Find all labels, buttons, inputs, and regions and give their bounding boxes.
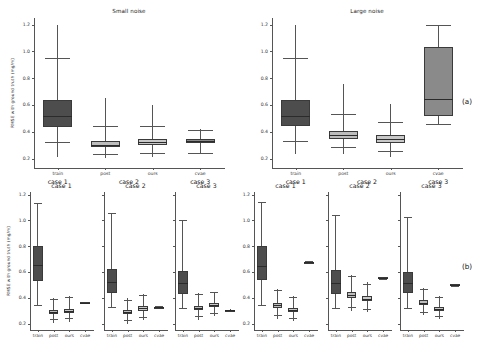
y-tick-label: 0.8 [10, 244, 26, 249]
median-line [419, 303, 429, 304]
whisker-cap-high [258, 202, 266, 203]
y-tick-mark [270, 78, 272, 79]
x-tick-mark [69, 330, 70, 332]
y-tick-label: 0.4 [234, 295, 250, 300]
whisker-cap-high [378, 122, 403, 123]
whisker-cap-high [108, 213, 116, 214]
subplot-title: case 3 [400, 182, 463, 189]
x-tick-label-post: post [89, 171, 121, 176]
y-tick-mark [102, 220, 104, 221]
median-line [434, 309, 444, 310]
whisker-cap-low [332, 308, 340, 309]
x-tick-mark [38, 330, 39, 332]
x-tick-label-cvae: cvae [439, 333, 471, 338]
whisker-cap-low [435, 316, 443, 317]
x-tick-mark [143, 330, 144, 332]
whisker-cap-high [289, 297, 297, 298]
median-line [49, 312, 59, 313]
whisker-cap-high [348, 276, 356, 277]
x-tick-label-post: post [327, 171, 359, 176]
whisker-cap-low [363, 309, 371, 310]
x-tick-mark [200, 168, 201, 170]
y-tick-mark [252, 272, 254, 273]
box-train [107, 269, 117, 293]
x-tick-mark [153, 168, 154, 170]
whisker-line [105, 98, 106, 158]
whisker-cap-low [195, 316, 203, 317]
y-axis-line [175, 192, 176, 330]
x-tick-mark [336, 330, 337, 332]
panel-tag-b: (b) [462, 262, 472, 271]
box-train [331, 270, 341, 294]
whisker-cap-low [34, 305, 42, 306]
x-tick-label-cvae: cvae [214, 333, 246, 338]
y-tick-mark [270, 132, 272, 133]
whisker-cap-high [140, 126, 165, 127]
whisker-line [111, 213, 112, 308]
y-tick-label: 0.4 [252, 129, 268, 134]
y-tick-mark [252, 324, 254, 325]
whisker-cap-low [331, 147, 356, 148]
box-cvae [424, 47, 453, 117]
x-tick-mark [214, 330, 215, 332]
x-tick-mark [367, 330, 368, 332]
y-axis-line [328, 192, 329, 330]
y-tick-mark [102, 298, 104, 299]
subplot-title: case 3 [175, 182, 238, 189]
x-tick-mark [199, 330, 200, 332]
y-tick-label: 1.0 [10, 218, 26, 223]
whisker-cap-high [195, 294, 203, 295]
y-tick-mark [32, 25, 34, 26]
whisker-cap-high [210, 292, 218, 293]
whisker-cap-low [283, 141, 308, 142]
y-tick-mark [326, 195, 328, 196]
whisker-cap-low [348, 307, 356, 308]
y-tick-mark [326, 220, 328, 221]
median-line [186, 141, 215, 142]
median-line [362, 299, 372, 300]
median-line [209, 305, 219, 306]
subplot-title: Small noise [34, 8, 224, 14]
whisker-line [343, 84, 344, 154]
panel-tag-a: (a) [462, 97, 472, 106]
box-train [43, 100, 72, 127]
x-axis-line [328, 330, 392, 331]
whisker-cap-low [93, 154, 118, 155]
whisker-cap-low [139, 317, 147, 318]
median-line [225, 310, 235, 311]
x-tick-mark [54, 330, 55, 332]
x-tick-mark [424, 330, 425, 332]
median-line [64, 311, 74, 312]
x-tick-mark [112, 330, 113, 332]
x-tick-label-cvae: cvae [422, 171, 454, 176]
x-tick-mark [391, 168, 392, 170]
y-tick-mark [326, 246, 328, 247]
box-train [178, 271, 188, 294]
median-line [33, 265, 43, 266]
x-tick-mark [183, 330, 184, 332]
y-tick-mark [173, 298, 175, 299]
y-tick-label: 0.6 [10, 269, 26, 274]
subplot-title: case 1 [30, 182, 93, 189]
y-tick-label: 0.4 [14, 129, 30, 134]
whisker-cap-low [404, 308, 412, 309]
x-tick-mark [383, 330, 384, 332]
whisker-cap-low [140, 153, 165, 154]
y-tick-label: 0.4 [10, 295, 26, 300]
y-axis-line [34, 18, 35, 168]
y-tick-label: 1.0 [234, 218, 250, 223]
x-tick-mark [105, 168, 106, 170]
x-tick-mark [230, 330, 231, 332]
whisker-cap-high [139, 295, 147, 296]
whisker-cap-low [179, 308, 187, 309]
whisker-cap-low [50, 319, 58, 320]
y-tick-mark [398, 220, 400, 221]
x-axis-line [30, 330, 94, 331]
median-line [304, 262, 314, 263]
y-tick-mark [252, 195, 254, 196]
whisker-cap-high [50, 299, 58, 300]
y-tick-mark [32, 132, 34, 133]
y-tick-mark [252, 220, 254, 221]
y-tick-label: 0.6 [14, 102, 30, 107]
whisker-cap-low [274, 315, 282, 316]
